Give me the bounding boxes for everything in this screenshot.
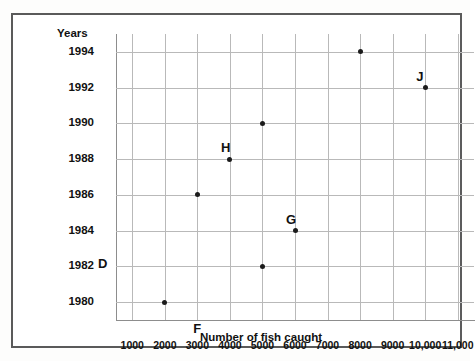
x-axis-tick-label: 11,000 [441, 340, 475, 351]
x-axis-tick-label: 10,000 [408, 340, 442, 351]
y-axis-tick-label: 1986 [13, 189, 94, 201]
gridline-horizontal [116, 88, 474, 89]
x-axis-line [116, 320, 475, 321]
gridline-horizontal [116, 302, 474, 303]
gridline-vertical [328, 34, 329, 320]
x-axis-tick-label: 2000 [148, 340, 182, 351]
data-point [260, 121, 265, 126]
data-point-label-h: H [221, 141, 230, 154]
y-axis-tick-label: 1992 [13, 82, 94, 94]
data-point-label-g: G [286, 213, 296, 226]
gridline-horizontal [116, 266, 474, 267]
gridline-vertical [425, 34, 426, 320]
gridline-horizontal [116, 52, 474, 53]
data-point [162, 300, 167, 305]
y-axis-tick-label: 1982 [13, 260, 94, 272]
gridline-horizontal [116, 123, 474, 124]
gridline-vertical [360, 34, 361, 320]
gridline-vertical [262, 34, 263, 320]
y-axis-tick-label: 1980 [13, 296, 94, 308]
gridline-vertical [230, 34, 231, 320]
x-axis-title: Number of fish caught [200, 332, 322, 344]
data-point [423, 85, 428, 90]
y-axis-title: Years [57, 28, 88, 40]
x-axis-tick-label: 9000 [376, 340, 410, 351]
data-point [195, 192, 200, 197]
gridline-vertical [393, 34, 394, 320]
plot-area: JHG [116, 34, 474, 320]
annotation-label-d: D [98, 257, 107, 270]
y-axis-tick-label: 1988 [13, 153, 94, 165]
y-axis-tick-label: 1990 [13, 117, 94, 129]
y-axis-tick-label: 1984 [13, 225, 94, 237]
gridline-horizontal [116, 195, 474, 196]
gridline-vertical [458, 34, 459, 320]
gridline-vertical [132, 34, 133, 320]
chart-frame: Years 19941992199019881986198419821980 D… [11, 13, 462, 348]
y-axis-tick-label: 1994 [13, 46, 94, 58]
gridline-vertical [295, 34, 296, 320]
x-axis-tick-label: 8000 [343, 340, 377, 351]
gridline-horizontal [116, 159, 474, 160]
gridline-vertical [165, 34, 166, 320]
data-point [293, 228, 298, 233]
data-point [358, 49, 363, 54]
data-point [227, 157, 232, 162]
data-point-label-j: J [416, 70, 423, 83]
data-point [260, 264, 265, 269]
x-axis-tick-label: 1000 [115, 340, 149, 351]
gridline-vertical [197, 34, 198, 320]
